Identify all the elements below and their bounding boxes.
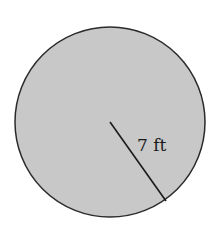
circle-diagram: 7 ft xyxy=(0,0,213,233)
radius-label: 7 ft xyxy=(137,135,167,155)
